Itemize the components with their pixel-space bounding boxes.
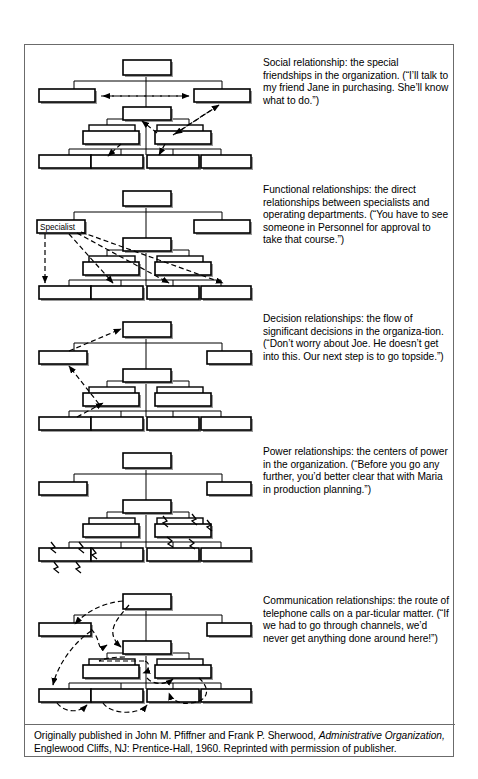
org-chart-power (29, 438, 257, 578)
panel-text-communication: Communication relationships: the route o… (263, 595, 449, 645)
panel-text-functional: Functional relationships: the direct rel… (263, 184, 449, 247)
caption-part1: Originally published in John M. Pfiffner… (34, 730, 319, 741)
org-chart-communication (29, 579, 257, 724)
org-chart-functional: Specialist (29, 176, 257, 306)
panel-text-decision: Decision relationships: the flow of sign… (263, 313, 449, 363)
panel-communication: Communication relationships: the route o… (25, 579, 455, 724)
source-caption: Originally published in John M. Pfiffner… (34, 730, 448, 756)
chart-col-decision (29, 307, 257, 437)
specialist-box-label: Specialist (40, 223, 76, 232)
panel-decision: Decision relationships: the flow of sign… (25, 307, 455, 437)
chart-col-social (29, 45, 257, 175)
chart-col-functional: Specialist (29, 176, 257, 306)
chart-col-power (29, 438, 257, 578)
chart-col-communication (29, 579, 257, 724)
panel-text-social: Social relationship: the special friends… (263, 57, 449, 107)
org-chart-decision (29, 307, 257, 437)
caption-divider (25, 724, 455, 725)
caption-book-title: Administrative Organization, (319, 730, 445, 741)
panel-text-power: Power relationships: the centers of powe… (263, 446, 449, 496)
figure-page: Social relationship: the special friends… (0, 0, 478, 779)
panel-functional: Specialist Functional relationships: the… (25, 176, 455, 306)
org-chart-social (29, 45, 257, 175)
figure-frame: Social relationship: the special friends… (24, 44, 454, 757)
panel-power: Power relationships: the centers of powe… (25, 438, 455, 578)
caption-part2: Englewood Cliffs, NJ: Prentice-Hall, 196… (34, 743, 397, 754)
panel-social: Social relationship: the special friends… (25, 45, 455, 175)
